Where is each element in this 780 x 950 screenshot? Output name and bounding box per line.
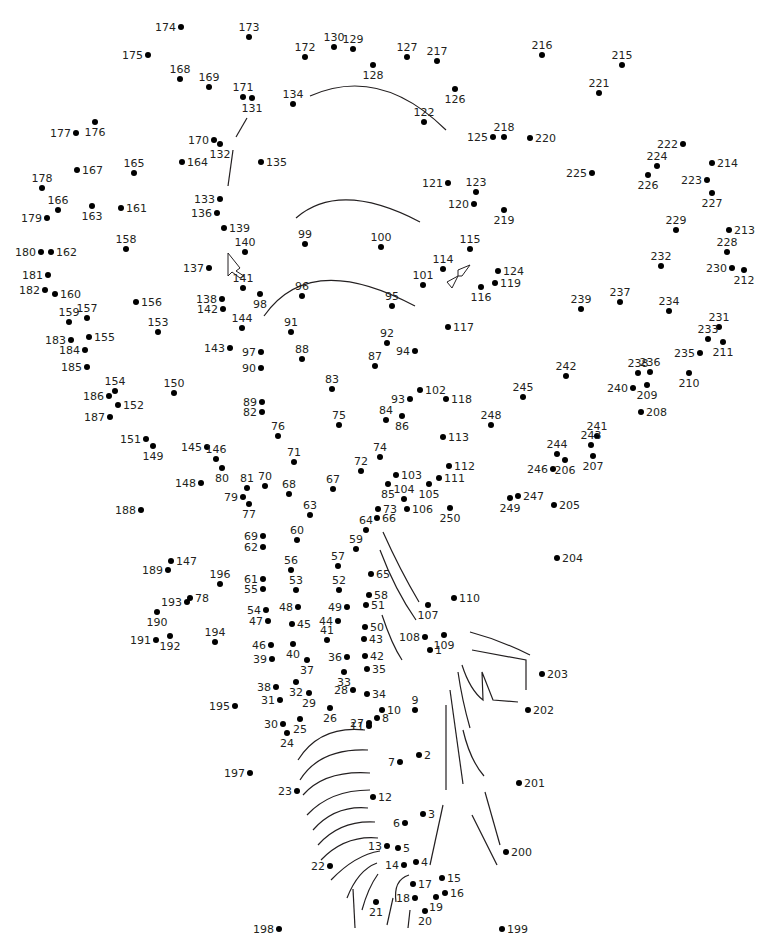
dot-64[interactable]: 64: [359, 514, 373, 533]
dot-54[interactable]: 54: [247, 604, 269, 617]
dot-marker[interactable]: [177, 76, 183, 82]
dot-marker[interactable]: [421, 119, 427, 125]
dot-marker[interactable]: [107, 414, 113, 420]
dot-marker[interactable]: [260, 544, 266, 550]
dot-marker[interactable]: [590, 453, 596, 459]
dot-marker[interactable]: [686, 370, 692, 376]
dot-marker[interactable]: [259, 399, 265, 405]
dot-101[interactable]: 101: [413, 269, 434, 288]
dot-marker[interactable]: [286, 491, 292, 497]
dot-154[interactable]: 154: [105, 375, 126, 394]
dot-147[interactable]: 147: [168, 555, 197, 568]
dot-233[interactable]: 233: [698, 323, 719, 342]
dot-marker[interactable]: [335, 563, 341, 569]
dot-marker[interactable]: [412, 895, 418, 901]
dot-marker[interactable]: [260, 576, 266, 582]
dot-34[interactable]: 34: [364, 688, 386, 701]
dot-marker[interactable]: [284, 730, 290, 736]
dot-marker[interactable]: [293, 587, 299, 593]
dot-220[interactable]: 220: [527, 132, 556, 145]
dot-marker[interactable]: [262, 483, 268, 489]
dot-116[interactable]: 116: [471, 284, 492, 304]
dot-marker[interactable]: [501, 207, 507, 213]
dot-marker[interactable]: [520, 394, 526, 400]
dot-3[interactable]: 3: [420, 808, 435, 821]
dot-180[interactable]: 180: [15, 246, 44, 259]
dot-marker[interactable]: [265, 618, 271, 624]
dot-143[interactable]: 143: [204, 342, 233, 355]
dot-marker[interactable]: [276, 926, 282, 932]
dot-marker[interactable]: [92, 119, 98, 125]
dot-marker[interactable]: [644, 382, 650, 388]
dot-marker[interactable]: [404, 506, 410, 512]
dot-221[interactable]: 221: [589, 77, 610, 96]
dot-212[interactable]: 212: [734, 267, 755, 287]
dot-103[interactable]: 103: [393, 469, 422, 482]
dot-87[interactable]: 87: [368, 350, 382, 369]
dot-56[interactable]: 56: [284, 554, 298, 573]
dot-marker[interactable]: [412, 707, 418, 713]
dot-marker[interactable]: [302, 54, 308, 60]
dot-marker[interactable]: [268, 642, 274, 648]
dot-146[interactable]: 146: [206, 443, 227, 462]
dot-marker[interactable]: [413, 859, 419, 865]
dot-marker[interactable]: [123, 246, 129, 252]
dot-marker[interactable]: [425, 602, 431, 608]
dot-21[interactable]: 21: [369, 899, 383, 919]
dot-marker[interactable]: [242, 249, 248, 255]
dot-marker[interactable]: [709, 160, 715, 166]
dot-marker[interactable]: [516, 780, 522, 786]
dot-248[interactable]: 248: [481, 409, 502, 428]
dot-108[interactable]: 108: [399, 631, 428, 644]
dot-205[interactable]: 205: [551, 499, 580, 512]
dot-59[interactable]: 59: [349, 533, 363, 552]
dot-marker[interactable]: [363, 602, 369, 608]
dot-marker[interactable]: [368, 571, 374, 577]
dot-18[interactable]: 18: [396, 892, 418, 905]
dot-marker[interactable]: [443, 396, 449, 402]
dot-marker[interactable]: [106, 393, 112, 399]
dot-238[interactable]: 238: [628, 357, 649, 376]
dot-142[interactable]: 142: [197, 303, 226, 316]
dot-marker[interactable]: [550, 466, 556, 472]
dot-marker[interactable]: [445, 180, 451, 186]
dot-marker[interactable]: [168, 558, 174, 564]
dot-31[interactable]: 31: [261, 694, 283, 707]
dot-227[interactable]: 227: [702, 190, 723, 210]
dot-marker[interactable]: [246, 34, 252, 40]
dot-70[interactable]: 70: [258, 470, 272, 489]
dot-4[interactable]: 4: [413, 856, 428, 869]
dot-marker[interactable]: [410, 881, 416, 887]
dot-57[interactable]: 57: [331, 550, 345, 569]
dot-marker[interactable]: [219, 465, 225, 471]
dot-marker[interactable]: [86, 334, 92, 340]
dot-176[interactable]: 176: [85, 119, 106, 139]
dot-214[interactable]: 214: [709, 157, 738, 170]
dot-201[interactable]: 201: [516, 777, 545, 790]
dot-105[interactable]: 105: [419, 481, 440, 501]
dot-marker[interactable]: [401, 862, 407, 868]
dot-9[interactable]: 9: [412, 694, 419, 713]
dot-marker[interactable]: [206, 265, 212, 271]
dot-marker[interactable]: [378, 244, 384, 250]
dot-200[interactable]: 200: [503, 846, 532, 859]
dot-99[interactable]: 99: [298, 228, 312, 247]
dot-58[interactable]: 58: [366, 589, 388, 602]
dot-marker[interactable]: [478, 284, 484, 290]
dot-marker[interactable]: [427, 647, 433, 653]
dot-106[interactable]: 106: [404, 503, 433, 516]
dot-83[interactable]: 83: [325, 373, 339, 392]
dot-marker[interactable]: [654, 163, 660, 169]
dot-marker[interactable]: [336, 587, 342, 593]
dot-152[interactable]: 152: [115, 399, 144, 412]
dot-marker[interactable]: [258, 159, 264, 165]
dot-marker[interactable]: [551, 502, 557, 508]
dot-marker[interactable]: [329, 386, 335, 392]
dot-197[interactable]: 197: [224, 767, 253, 780]
dot-marker[interactable]: [446, 463, 452, 469]
dot-marker[interactable]: [353, 546, 359, 552]
dot-marker[interactable]: [361, 636, 367, 642]
dot-marker[interactable]: [288, 329, 294, 335]
dot-marker[interactable]: [673, 227, 679, 233]
dot-marker[interactable]: [372, 363, 378, 369]
